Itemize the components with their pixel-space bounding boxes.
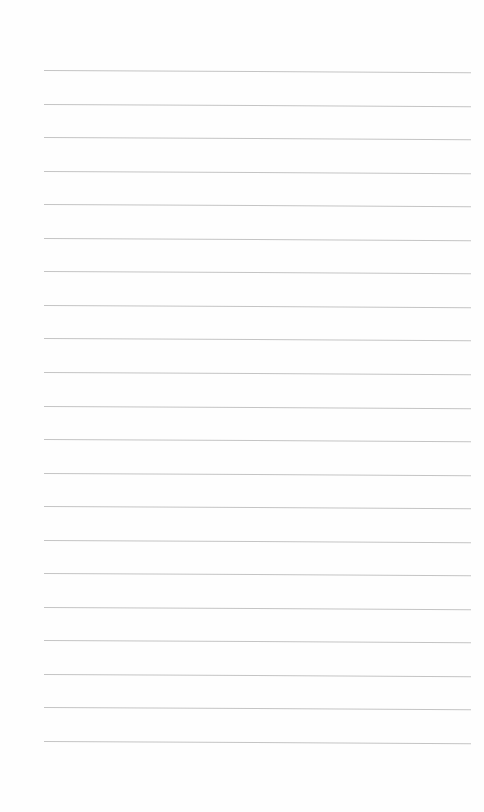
ruled-line [44, 741, 471, 744]
ruled-line [44, 406, 471, 409]
ruled-line [44, 137, 471, 140]
ruled-line [44, 171, 471, 174]
ruled-line [44, 372, 471, 375]
ruled-line [44, 506, 471, 509]
ruled-line [44, 607, 471, 610]
ruled-line [44, 338, 471, 341]
ruled-line [44, 674, 471, 677]
ruled-line [44, 439, 471, 442]
ruled-line [44, 707, 471, 710]
ruled-line [44, 204, 471, 207]
ruled-line [44, 305, 471, 308]
ruled-line [44, 104, 471, 107]
ruled-line [44, 238, 471, 241]
ruled-line [44, 473, 471, 476]
ruled-line [44, 271, 471, 274]
ruled-line [44, 70, 471, 73]
ruled-line [44, 573, 471, 576]
ruled-line [44, 540, 471, 543]
ruled-line [44, 640, 471, 643]
lined-paper-page [0, 0, 484, 812]
